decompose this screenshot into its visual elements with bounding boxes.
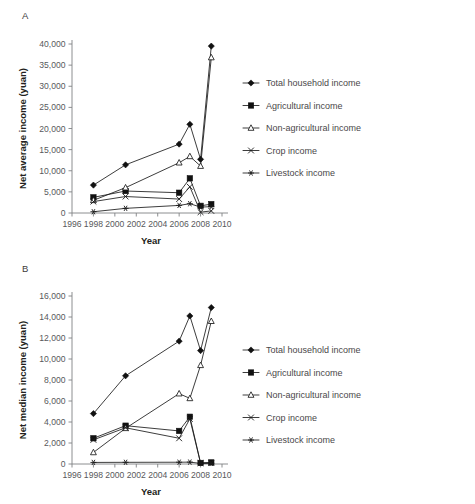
figure-container: A 05,00010,00015,00020,00025,00030,00035…	[0, 0, 475, 504]
data-point-marker	[176, 390, 182, 396]
y-tick-label: 10,000	[39, 166, 66, 176]
x-tick-label: 2002	[127, 470, 146, 480]
y-tick-label: 8,000	[44, 375, 66, 385]
data-point-marker	[176, 190, 181, 195]
data-point-marker	[248, 392, 254, 398]
data-point-marker	[248, 370, 253, 375]
data-point-marker	[187, 184, 193, 190]
data-point-marker	[187, 176, 192, 181]
x-tick-label: 2000	[105, 219, 124, 229]
data-point-marker	[198, 362, 204, 368]
x-tick-label: 2004	[148, 219, 167, 229]
data-point-marker	[248, 170, 254, 175]
data-point-marker	[187, 201, 193, 206]
y-tick-label: 6,000	[44, 396, 66, 406]
y-axis-title: Net median income (yuan)	[17, 321, 28, 439]
x-axis-ticks: 19961998200020022004200620082010	[62, 464, 231, 480]
y-tick-label: 14,000	[39, 312, 66, 322]
legend-label: Crop income	[266, 146, 317, 156]
y-tick-label: 25,000	[39, 102, 66, 112]
legend-item-crop-income: Crop income	[243, 413, 317, 423]
series-livestock-income	[90, 460, 214, 466]
y-tick-label: 30,000	[39, 81, 66, 91]
data-point-marker	[122, 162, 128, 168]
data-point-marker	[248, 103, 253, 108]
legend-item-agricultural-income: Agricultural income	[243, 101, 343, 111]
x-tick-label: 1996	[62, 219, 81, 229]
data-point-marker	[248, 347, 254, 353]
x-tick-label: 1998	[84, 470, 103, 480]
series-line	[93, 419, 211, 463]
data-point-marker	[187, 121, 193, 127]
legend-label: Agricultural income	[266, 101, 343, 111]
x-axis-title: Year	[141, 486, 161, 497]
data-point-marker	[176, 338, 182, 344]
legend-label: Crop income	[266, 413, 317, 423]
series-total-household-income	[90, 304, 214, 416]
series-line	[93, 178, 211, 205]
y-axis-ticks: 05,00010,00015,00020,00025,00030,00035,0…	[39, 39, 72, 218]
data-point-marker	[176, 160, 182, 166]
x-tick-label: 2006	[170, 219, 189, 229]
y-tick-label: 15,000	[39, 145, 66, 155]
series-line	[93, 462, 211, 463]
data-point-marker	[208, 304, 214, 310]
y-tick-label: 12,000	[39, 333, 66, 343]
series-line	[93, 187, 211, 212]
series-livestock-income	[90, 201, 214, 214]
data-point-marker	[176, 428, 181, 433]
y-tick-label: 16,000	[39, 291, 66, 301]
data-point-marker	[197, 348, 203, 354]
legend-label: Agricultural income	[266, 368, 343, 378]
legend-item-agricultural-income: Agricultural income	[243, 368, 343, 378]
series-total-household-income	[90, 43, 214, 188]
series-line	[93, 204, 211, 212]
x-tick-label: 2006	[170, 470, 189, 480]
y-tick-label: 0	[61, 208, 66, 218]
series-line	[93, 417, 211, 463]
legend-label: Non-agricultural income	[266, 123, 361, 133]
data-point-marker	[187, 313, 193, 319]
x-tick-label: 2008	[191, 219, 210, 229]
panel-b: B 02,0004,0006,0008,00010,00012,00014,00…	[0, 252, 475, 504]
x-tick-label: 2008	[191, 470, 210, 480]
legend-label: Total household income	[266, 345, 361, 355]
y-tick-label: 4,000	[44, 417, 66, 427]
series-agricultural-income	[91, 176, 214, 209]
data-point-marker	[123, 184, 129, 190]
legend-item-total-household-income: Total household income	[243, 78, 361, 88]
legend-item-livestock-income: Livestock income	[243, 168, 335, 178]
y-tick-label: 20,000	[39, 124, 66, 134]
data-point-marker	[90, 449, 96, 455]
panel-a: A 05,00010,00015,00020,00025,00030,00035…	[0, 0, 475, 252]
y-axis-title: Net average income (yuan)	[17, 68, 28, 189]
x-tick-label: 2004	[148, 470, 167, 480]
x-tick-label: 2002	[127, 219, 146, 229]
data-point-marker	[123, 206, 129, 211]
legend-item-livestock-income: Livestock income	[243, 435, 335, 445]
data-point-marker	[248, 80, 254, 86]
legend-item-total-household-income: Total household income	[243, 345, 361, 355]
legend-item-crop-income: Crop income	[243, 146, 317, 156]
legend-label: Total household income	[266, 78, 361, 88]
legend-label: Livestock income	[266, 168, 335, 178]
data-point-marker	[197, 156, 203, 162]
series-line	[93, 46, 211, 185]
legend: Total household incomeAgricultural incom…	[243, 78, 361, 178]
panel-a-plot: 05,00010,00015,00020,00025,00030,00035,0…	[0, 0, 475, 252]
x-tick-label: 1996	[62, 470, 81, 480]
x-tick-label: 2000	[105, 470, 124, 480]
data-point-marker	[90, 182, 96, 188]
series-agricultural-income	[91, 414, 214, 466]
y-tick-label: 10,000	[39, 354, 66, 364]
y-tick-label: 2,000	[44, 438, 66, 448]
data-point-marker	[187, 153, 193, 159]
series-non-agricultural-income	[90, 54, 214, 202]
data-point-marker	[208, 43, 214, 49]
x-tick-label: 2010	[212, 219, 231, 229]
y-axis-ticks: 02,0004,0006,0008,00010,00012,00014,0001…	[39, 291, 72, 469]
legend-item-non-agricultural-income: Non-agricultural income	[243, 123, 361, 133]
legend-label: Livestock income	[266, 435, 335, 445]
y-tick-label: 0	[61, 459, 66, 469]
series-line	[93, 308, 211, 414]
